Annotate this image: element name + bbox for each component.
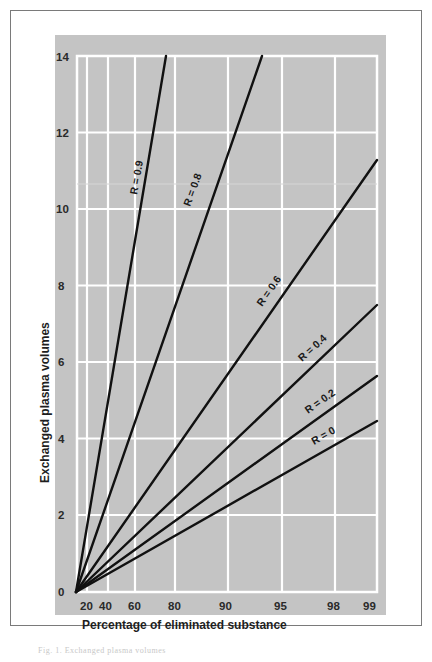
x-axis-title: Percentage of eliminated substance <box>82 618 287 632</box>
y-axis-title: Exchanged plasma volumes <box>38 322 52 483</box>
chart: R = 0.9 R = 0.8 R = 0.6 R = 0.4 R = 0.2 … <box>0 0 432 662</box>
svg-text:95: 95 <box>274 600 287 612</box>
svg-text:98: 98 <box>327 600 340 612</box>
svg-text:99: 99 <box>363 600 376 612</box>
svg-text:10: 10 <box>56 203 69 215</box>
svg-text:12: 12 <box>56 127 69 139</box>
figure-caption: Fig. 1. Exchanged plasma volumes <box>38 646 166 655</box>
svg-text:4: 4 <box>58 433 65 445</box>
svg-text:14: 14 <box>56 51 69 63</box>
svg-text:90: 90 <box>219 600 232 612</box>
svg-text:40: 40 <box>99 600 112 612</box>
svg-text:0: 0 <box>58 586 64 598</box>
svg-text:2: 2 <box>58 509 64 521</box>
svg-text:80: 80 <box>168 600 181 612</box>
svg-text:8: 8 <box>58 280 65 292</box>
svg-text:60: 60 <box>128 600 141 612</box>
svg-text:6: 6 <box>58 356 64 368</box>
chart-background <box>55 35 386 615</box>
svg-text:20: 20 <box>80 600 93 612</box>
